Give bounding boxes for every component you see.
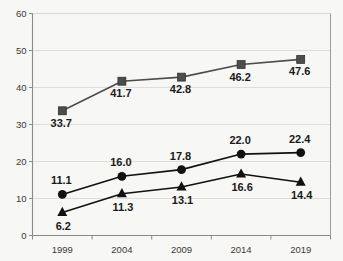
y-tick-label-30: 30	[16, 119, 27, 130]
marker-circle-2009	[177, 165, 186, 174]
y-tick-label-40: 40	[16, 82, 27, 93]
x-tick-label-2009: 2009	[171, 244, 192, 255]
data-label-circle-1999: 11.1	[51, 174, 72, 186]
data-label-triangle-2009: 13.1	[172, 194, 193, 206]
data-label-square-2009: 42.8	[170, 83, 191, 95]
x-tick-label-2019: 2019	[290, 244, 311, 255]
data-label-circle-2004: 16.0	[110, 156, 131, 168]
data-label-circle-2014: 22.0	[229, 134, 250, 146]
marker-circle-2019	[296, 148, 305, 157]
x-tick-label-1999: 1999	[52, 244, 73, 255]
data-label-square-1999: 33.7	[51, 117, 72, 129]
x-tick-label-2004: 2004	[111, 244, 132, 255]
marker-square-1999	[58, 107, 66, 115]
marker-square-2009	[178, 73, 186, 81]
data-label-square-2019: 47.6	[289, 65, 310, 77]
data-label-circle-2019: 22.4	[289, 133, 311, 145]
y-tick-label-10: 10	[16, 193, 27, 204]
data-label-square-2004: 41.7	[110, 87, 131, 99]
marker-circle-2004	[118, 172, 127, 181]
data-label-circle-2009: 17.8	[170, 150, 191, 162]
marker-square-2019	[297, 55, 305, 63]
marker-square-2014	[237, 61, 245, 69]
data-label-triangle-2019: 14.4	[291, 189, 313, 201]
chart-background	[0, 0, 343, 261]
marker-square-2004	[118, 77, 126, 85]
data-label-triangle-2004: 11.3	[112, 201, 133, 213]
chart-container: 0102030405060 19992004200920142019 33.74…	[0, 0, 343, 261]
data-label-triangle-1999: 6.2	[56, 220, 71, 232]
marker-circle-1999	[58, 190, 67, 199]
y-tick-label-60: 60	[16, 8, 27, 19]
y-tick-label-20: 20	[16, 156, 27, 167]
x-tick-label-2014: 2014	[231, 244, 252, 255]
y-tick-label-50: 50	[16, 45, 27, 56]
y-tick-label-0: 0	[21, 230, 26, 241]
data-label-square-2014: 46.2	[229, 71, 250, 83]
marker-circle-2014	[237, 150, 246, 159]
data-label-triangle-2014: 16.6	[231, 181, 252, 193]
line-chart: 0102030405060 19992004200920142019 33.74…	[0, 0, 343, 261]
